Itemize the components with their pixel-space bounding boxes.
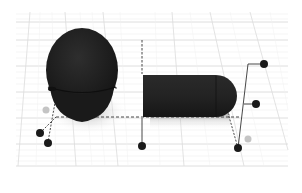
capsule-object[interactable] — [143, 75, 237, 117]
height-handle-mid[interactable] — [252, 100, 260, 108]
3d-viewport[interactable] — [0, 0, 302, 193]
height-handle-top[interactable] — [260, 60, 268, 68]
corner-handle-left-top[interactable] — [43, 107, 50, 114]
corner-handle-right-back[interactable] — [245, 136, 252, 143]
corner-handle-right-front[interactable] — [234, 144, 242, 152]
corner-handle-center-front[interactable] — [138, 142, 146, 150]
corner-handle-left-front[interactable] — [44, 139, 52, 147]
corner-handle-left-back[interactable] — [36, 129, 44, 137]
